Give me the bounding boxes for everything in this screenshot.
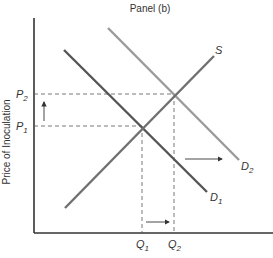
demand-curve-d1 xyxy=(64,50,207,192)
chart-title: Panel (b) xyxy=(130,3,171,14)
tick-q1: Q1 xyxy=(136,238,149,253)
y-axis-label: Price of Inoculation xyxy=(1,99,12,184)
label-d1: D1 xyxy=(210,191,222,206)
tick-p2: P2 xyxy=(16,88,28,103)
tick-p1: P1 xyxy=(16,120,28,135)
supply-curve-s xyxy=(65,56,214,208)
tick-q2: Q2 xyxy=(168,238,182,253)
label-d2: D2 xyxy=(241,160,254,175)
label-s: S xyxy=(215,44,223,56)
supply-demand-chart: Panel (b) Price of Inoculation S D2 D1 P… xyxy=(0,0,273,258)
